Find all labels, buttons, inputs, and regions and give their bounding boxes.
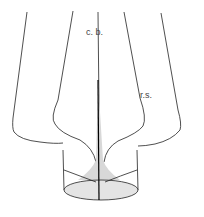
base-left-side	[63, 150, 64, 190]
label-right-side: r.s.	[140, 91, 152, 100]
base-ellipse	[64, 180, 138, 200]
label-center-back: c. b.	[86, 28, 103, 37]
outer-right-panel	[161, 13, 181, 130]
outer-right-hem	[138, 130, 180, 146]
outer-left-hem	[14, 132, 63, 143]
outer-left-panel	[13, 12, 27, 132]
inner-right-panel	[104, 12, 144, 162]
base-right-side	[137, 150, 138, 190]
